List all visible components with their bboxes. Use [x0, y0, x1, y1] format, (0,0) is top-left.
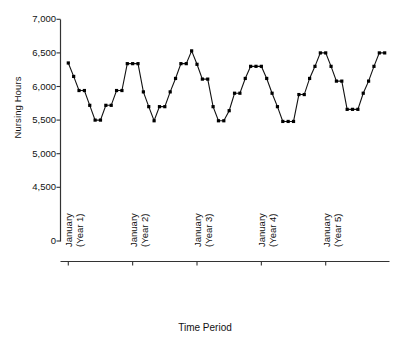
x-tick-label-year: (Year 2): [140, 214, 150, 247]
data-point-marker: [346, 108, 349, 111]
x-tick-label-month: January: [322, 213, 332, 247]
data-point-marker: [233, 92, 236, 95]
x-tick-label-year: (Year 5): [333, 214, 343, 247]
data-point-marker: [281, 120, 284, 123]
data-point-marker: [126, 62, 129, 65]
data-point-marker: [292, 120, 295, 123]
x-tick-label-month: January: [257, 213, 267, 247]
x-tick-label-year: (Year 3): [204, 214, 214, 247]
data-point-marker: [228, 109, 231, 112]
data-point-marker: [77, 89, 80, 92]
data-point-marker: [206, 78, 209, 81]
data-point-marker: [303, 93, 306, 96]
data-point-marker: [110, 104, 113, 107]
x-tick-label-year: (Year 1): [75, 214, 85, 247]
data-point-marker: [367, 80, 370, 83]
data-point-marker: [83, 89, 86, 92]
data-point-marker: [351, 108, 354, 111]
data-point-marker: [324, 51, 327, 54]
data-point-marker: [335, 80, 338, 83]
data-point-marker: [104, 104, 107, 107]
data-point-marker: [211, 105, 214, 108]
data-point-marker: [147, 105, 150, 108]
data-point-marker: [131, 62, 134, 65]
data-point-marker: [72, 75, 75, 78]
data-point-marker: [153, 119, 156, 122]
data-point-marker: [88, 104, 91, 107]
data-point-marker: [372, 65, 375, 68]
data-point-marker: [383, 51, 386, 54]
data-point-marker: [174, 77, 177, 80]
data-series-line: [68, 51, 384, 122]
data-point-marker: [158, 105, 161, 108]
chart-figure: Nursing Hours 7,0006,5006,0005,5005,0004…: [0, 0, 410, 343]
data-point-marker: [276, 105, 279, 108]
data-point-marker: [287, 120, 290, 123]
data-point-marker: [297, 93, 300, 96]
data-point-marker: [356, 108, 359, 111]
data-series-markers: [67, 49, 387, 123]
x-axis-title: Time Period: [0, 322, 410, 333]
data-point-marker: [362, 92, 365, 95]
data-point-marker: [179, 62, 182, 65]
data-point-marker: [265, 77, 268, 80]
data-point-marker: [244, 77, 247, 80]
data-point-marker: [238, 92, 241, 95]
data-point-marker: [120, 89, 123, 92]
data-point-marker: [142, 90, 145, 93]
plot-area: [0, 0, 410, 343]
data-point-marker: [340, 80, 343, 83]
data-point-marker: [319, 51, 322, 54]
data-point-marker: [190, 49, 193, 52]
data-point-marker: [99, 119, 102, 122]
data-point-marker: [115, 89, 118, 92]
data-point-marker: [329, 65, 332, 68]
x-tick-label-month: January: [193, 213, 203, 247]
data-point-marker: [254, 65, 257, 68]
x-tick-label-year: (Year 4): [268, 214, 278, 247]
data-point-marker: [222, 119, 225, 122]
data-point-marker: [67, 61, 70, 64]
data-point-marker: [378, 51, 381, 54]
data-point-marker: [308, 77, 311, 80]
data-point-marker: [217, 119, 220, 122]
data-point-marker: [169, 90, 172, 93]
data-point-marker: [313, 65, 316, 68]
x-tick-label-month: January: [64, 213, 74, 247]
data-point-marker: [260, 65, 263, 68]
x-tick-label-month: January: [129, 213, 139, 247]
data-point-marker: [94, 119, 97, 122]
data-point-marker: [249, 65, 252, 68]
data-point-marker: [185, 62, 188, 65]
data-point-marker: [195, 63, 198, 66]
data-point-marker: [163, 105, 166, 108]
data-point-marker: [270, 92, 273, 95]
data-point-marker: [201, 78, 204, 81]
data-point-marker: [136, 62, 139, 65]
